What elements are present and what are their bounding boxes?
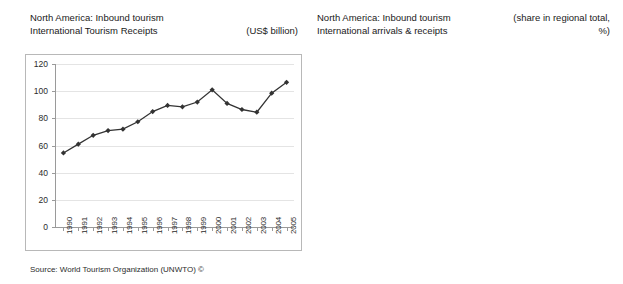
left-title-row-1: North America: Inbound tourism bbox=[30, 11, 298, 24]
left-source-note: Source: World Tourism Organization (UNWT… bbox=[30, 265, 204, 275]
x-axis-label: 2002 bbox=[245, 217, 253, 234]
left-chart-titles: North America: Inbound tourism Internati… bbox=[30, 11, 298, 37]
right-chart-title-line1: North America: Inbound tourism bbox=[317, 11, 451, 24]
x-axis-label: 1990 bbox=[66, 217, 74, 234]
right-chart-unit-note-line2: %) bbox=[598, 24, 610, 37]
x-axis-label: 1992 bbox=[96, 217, 104, 234]
x-axis-tick bbox=[168, 227, 169, 231]
y-axis-label: 120 bbox=[26, 60, 48, 69]
x-axis-tick bbox=[153, 227, 154, 231]
line-plot-area: 0204060801001201990199119921993199419951… bbox=[56, 64, 294, 227]
right-title-row-2: International arrivals & receipts %) bbox=[317, 24, 610, 37]
x-axis-label: 2005 bbox=[290, 217, 298, 234]
right-chart-unit-note-line1: (share in regional total, bbox=[513, 11, 610, 24]
x-axis-tick bbox=[227, 227, 228, 231]
y-axis-label: 40 bbox=[26, 168, 48, 177]
x-axis-tick bbox=[123, 227, 124, 231]
x-axis-label: 2001 bbox=[230, 217, 238, 234]
x-axis-label: 1998 bbox=[185, 217, 193, 234]
right-title-row-1: North America: Inbound tourism (share in… bbox=[317, 11, 610, 24]
x-axis-label: 2000 bbox=[215, 217, 223, 234]
x-axis-tick bbox=[242, 227, 243, 231]
y-axis-tick bbox=[52, 227, 56, 228]
y-axis-label: 80 bbox=[26, 114, 48, 123]
x-axis-label: 1993 bbox=[111, 217, 119, 234]
data-point-marker bbox=[120, 127, 125, 132]
line-series-svg bbox=[56, 64, 294, 227]
x-axis-tick bbox=[138, 227, 139, 231]
x-axis-tick bbox=[108, 227, 109, 231]
figure-pair: North America: Inbound tourism Internati… bbox=[0, 0, 623, 284]
left-chart-unit-note: (US$ billion) bbox=[246, 24, 298, 37]
left-chart-frame: 0204060801001201990199119921993199419951… bbox=[25, 54, 302, 251]
x-axis-tick bbox=[287, 227, 288, 231]
left-chart-panel: North America: Inbound tourism Internati… bbox=[0, 0, 312, 284]
x-axis-tick bbox=[272, 227, 273, 231]
y-axis-label: 60 bbox=[26, 141, 48, 150]
x-axis-label: 1991 bbox=[81, 217, 89, 234]
x-axis-label: 1996 bbox=[156, 217, 164, 234]
right-chart-titles: North America: Inbound tourism (share in… bbox=[317, 11, 610, 37]
y-axis-label: 20 bbox=[26, 196, 48, 205]
x-axis-label: 2003 bbox=[260, 217, 268, 234]
data-point-marker bbox=[165, 103, 170, 108]
x-axis-label: 1999 bbox=[200, 217, 208, 234]
x-axis-label: 1997 bbox=[171, 217, 179, 234]
right-chart-panel: North America: Inbound tourism (share in… bbox=[312, 0, 623, 284]
line-path bbox=[63, 82, 286, 153]
x-axis-label: 1995 bbox=[141, 217, 149, 234]
x-axis-label: 2004 bbox=[275, 217, 283, 234]
y-axis-label: 0 bbox=[26, 223, 48, 232]
left-title-row-2: International Tourism Receipts (US$ bill… bbox=[30, 24, 298, 37]
left-chart-title-line2: International Tourism Receipts bbox=[30, 24, 158, 37]
y-axis-label: 100 bbox=[26, 87, 48, 96]
left-chart-title-line1: North America: Inbound tourism bbox=[30, 11, 164, 24]
data-point-marker bbox=[239, 107, 244, 112]
data-point-marker bbox=[180, 104, 185, 109]
x-axis-tick bbox=[257, 227, 258, 231]
right-chart-title-line2: International arrivals & receipts bbox=[317, 24, 447, 37]
data-point-marker bbox=[105, 128, 110, 133]
x-axis-label: 1994 bbox=[126, 217, 134, 234]
